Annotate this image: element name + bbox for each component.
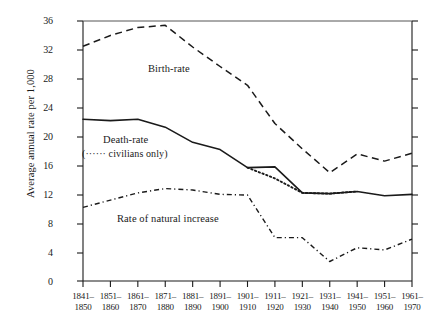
series-line bbox=[248, 168, 358, 194]
birth-rate-label: Birth-rate bbox=[148, 63, 190, 74]
death-rate-civilians-label: (······ civilians only) bbox=[82, 148, 168, 159]
death-rate-label: Death-rate bbox=[103, 134, 148, 145]
x-tick-label-bottom: 1970 bbox=[391, 302, 432, 313]
chart-container: Average annual rate per 1,000 36 32 28 2… bbox=[0, 0, 432, 331]
plot-area bbox=[0, 0, 432, 331]
x-tick-label: 1961–1970 bbox=[391, 291, 432, 313]
y-tick-marks-right bbox=[412, 21, 418, 253]
x-tick-label-top: 1961– bbox=[391, 291, 432, 302]
natural-increase-label: Rate of natural increase bbox=[117, 213, 219, 224]
series-line bbox=[83, 189, 412, 262]
x-tick-marks bbox=[83, 281, 412, 287]
